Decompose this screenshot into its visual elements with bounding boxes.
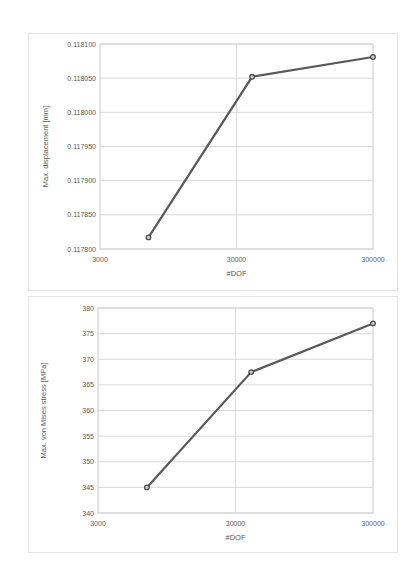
y-axis-tick-label: 0.117950 — [67, 143, 96, 150]
y-axis-tick-label: 365 — [82, 381, 94, 388]
data-point-marker — [249, 370, 254, 375]
y-axis-tick-label: 0.118050 — [67, 75, 96, 82]
y-axis-tick-label: 340 — [82, 510, 94, 517]
y-axis-tick-label: 0.117900 — [67, 177, 96, 184]
x-axis-tick-label: 30000 — [226, 520, 246, 527]
data-point-marker — [371, 55, 376, 60]
document-page: 0.1178000.1178500.1179000.1179500.118000… — [0, 0, 416, 584]
stress-chart-canvas: 3403453503553603653703753803000300003000… — [29, 297, 397, 552]
y-axis-tick-label: 375 — [82, 330, 94, 337]
data-point-marker — [146, 235, 151, 240]
x-axis-tick-label: 300000 — [361, 520, 384, 527]
y-axis-tick-label: 0.118000 — [67, 109, 96, 116]
y-axis-tick-label: 0.118100 — [67, 41, 96, 48]
y-axis-tick-label: 350 — [82, 458, 94, 465]
y-axis-title: Max. von Mises stress [MPa] — [39, 363, 48, 459]
y-axis-tick-label: 345 — [82, 484, 94, 491]
x-axis-tick-label: 3000 — [92, 256, 108, 263]
y-axis-tick-label: 360 — [82, 407, 94, 414]
y-axis-title: Max. displacement [mm] — [41, 106, 50, 187]
data-point-marker — [371, 321, 376, 326]
x-axis-title: #DOF — [226, 269, 246, 278]
displacement-convergence-chart: 0.1178000.1178500.1179000.1179500.118000… — [28, 33, 398, 291]
x-axis-tick-label: 300000 — [361, 256, 384, 263]
data-point-marker — [145, 485, 150, 490]
y-axis-tick-label: 355 — [82, 433, 94, 440]
y-axis-tick-label: 0.117850 — [67, 211, 96, 218]
von-mises-stress-convergence-chart: 3403453503553603653703753803000300003000… — [28, 296, 398, 553]
displacement-chart-canvas: 0.1178000.1178500.1179000.1179500.118000… — [29, 34, 397, 290]
data-point-marker — [250, 75, 255, 80]
y-axis-tick-label: 0.117800 — [67, 246, 96, 253]
y-axis-tick-label: 380 — [82, 305, 94, 312]
x-axis-tick-label: 30000 — [227, 256, 247, 263]
x-axis-title: #DOF — [225, 533, 245, 542]
y-axis-tick-label: 370 — [82, 356, 94, 363]
x-axis-tick-label: 3000 — [90, 520, 106, 527]
